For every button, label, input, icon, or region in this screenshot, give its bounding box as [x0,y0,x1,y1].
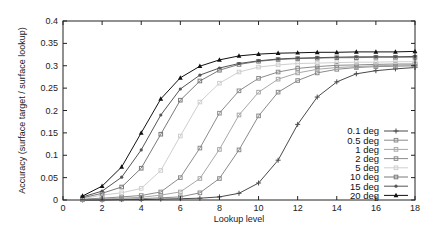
accuracy-line-chart: 02468101214161800.050.10.150.20.250.30.3… [0,0,435,236]
legend-label: 20 deg [350,190,379,201]
dot-marker-icon [237,62,240,65]
dot-marker-icon [198,74,201,77]
dot-marker-icon [140,148,143,151]
x-tick-label: 12 [293,203,303,213]
y-tick-label: 0.05 [40,173,58,183]
plus-marker-icon [237,191,242,196]
y-tick-label: 0.15 [40,128,58,138]
dot-marker-icon [101,189,104,192]
plus-marker-icon [354,71,359,76]
dot-marker-icon [257,59,260,62]
dot-marker-icon [394,185,397,188]
x-tick-label: 18 [410,203,420,213]
x-axis-label: Lookup level [214,214,265,224]
y-tick-label: 0.25 [40,83,58,93]
y-tick-label: 0 [53,195,58,205]
y-axis-label: Accuracy (surface target / surface looku… [17,27,27,194]
dot-marker-icon [374,55,377,58]
y-tick-label: 0.4 [45,16,58,26]
y-tick-label: 0.1 [45,150,58,160]
y-tick-label: 0.3 [45,61,58,71]
x-tick-label: 2 [100,203,105,213]
legend: 0.1 deg0.5 deg1 deg2 deg5 deg10 deg15 de… [347,125,408,200]
x-tick-label: 10 [254,203,264,213]
legend-item: 20 deg [350,190,408,201]
dot-marker-icon [316,56,319,59]
x-tick-label: 4 [139,203,144,213]
dot-marker-icon [335,56,338,59]
dot-marker-icon [218,66,221,69]
dot-marker-icon [179,87,182,90]
y-tick-label: 0.2 [45,106,58,116]
x-tick-label: 6 [178,203,183,213]
plus-marker-icon [394,129,399,134]
dot-marker-icon [394,55,397,58]
dot-marker-icon [277,57,280,60]
chart-canvas: 02468101214161800.050.10.150.20.250.30.3… [0,0,435,236]
dot-marker-icon [296,57,299,60]
triangle-marker-icon [178,75,183,79]
x-tick-label: 16 [371,203,381,213]
dot-marker-icon [355,55,358,58]
x-tick-label: 14 [332,203,342,213]
y-tick-label: 0.35 [40,38,58,48]
x-tick-label: 8 [217,203,222,213]
dot-marker-icon [120,176,123,179]
dot-marker-icon [159,113,162,116]
x-tick-label: 0 [60,203,65,213]
